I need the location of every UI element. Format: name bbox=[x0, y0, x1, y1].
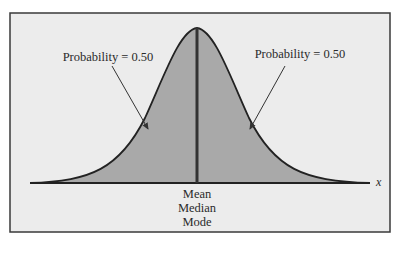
mode-label: Mode bbox=[182, 215, 212, 229]
normal-distribution-figure: Probability = 0.50 Probability = 0.50 Me… bbox=[0, 0, 408, 253]
median-label: Median bbox=[178, 201, 217, 215]
left-probability-label: Probability = 0.50 bbox=[63, 50, 154, 64]
x-axis-label: x bbox=[375, 175, 382, 189]
right-probability-label: Probability = 0.50 bbox=[255, 47, 346, 61]
mean-label: Mean bbox=[183, 187, 212, 201]
